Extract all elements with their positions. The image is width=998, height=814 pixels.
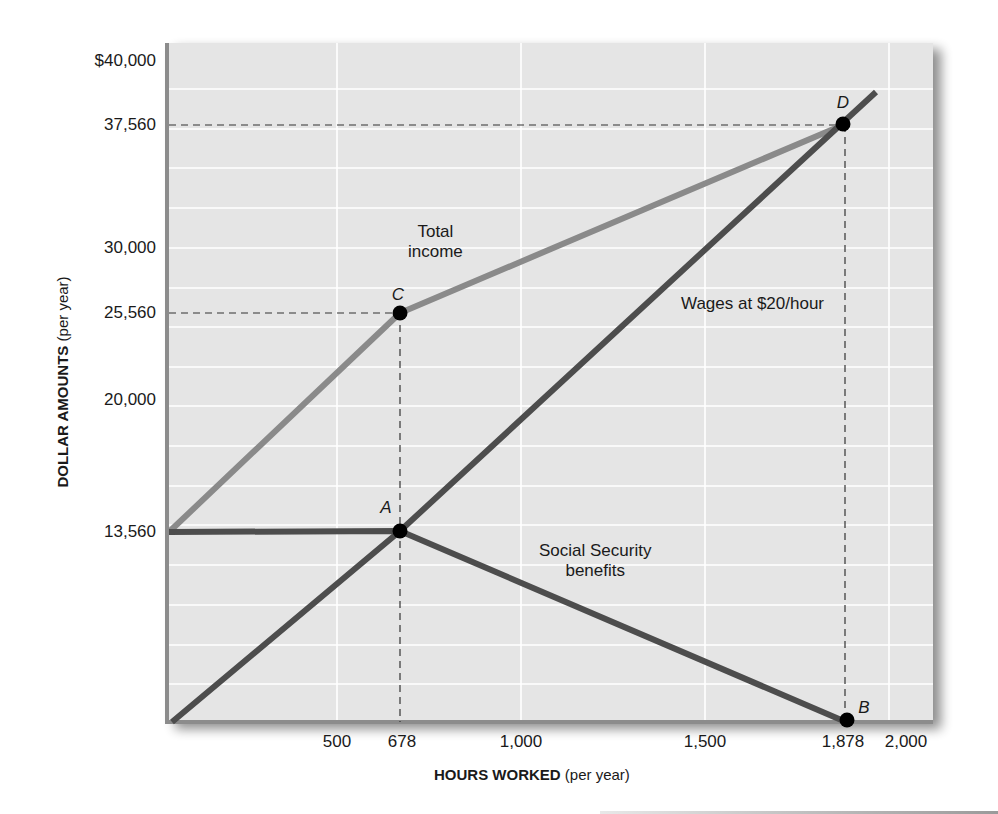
y-axis-title: DOLLAR AMOUNTS (per year) bbox=[54, 276, 71, 487]
point-b-marker bbox=[840, 713, 855, 728]
social-security-label: Social Security benefits bbox=[539, 541, 651, 581]
x-tick-label: 2,000 bbox=[885, 733, 928, 751]
y-tick-label: 37,560 bbox=[104, 116, 156, 134]
point-d-label: D bbox=[837, 93, 849, 113]
x-tick-label: 500 bbox=[323, 733, 351, 751]
total-income-label-line2: income bbox=[408, 242, 463, 262]
total-income-label: Total income bbox=[408, 222, 463, 262]
x-tick-label: 1,500 bbox=[684, 733, 727, 751]
x-axis-title-unit: (per year) bbox=[561, 766, 630, 783]
point-a-label: A bbox=[380, 498, 391, 518]
x-tick-label: 1,000 bbox=[500, 733, 543, 751]
point-c-marker bbox=[393, 306, 408, 321]
y-tick-label: 25,560 bbox=[104, 304, 156, 322]
x-tick-label: 1,878 bbox=[822, 733, 865, 751]
social-security-label-line1: Social Security bbox=[539, 541, 651, 561]
chart-figure: $40,000 37,560 30,000 25,560 20,000 13,5… bbox=[0, 0, 998, 814]
point-d-marker bbox=[836, 117, 851, 132]
point-c-label: C bbox=[392, 285, 404, 305]
y-tick-label: 13,560 bbox=[104, 523, 156, 541]
x-axis-title: HOURS WORKED (per year) bbox=[434, 766, 630, 783]
y-tick-label: 30,000 bbox=[104, 239, 156, 257]
y-axis-title-unit: (per year) bbox=[54, 276, 71, 345]
point-a-marker bbox=[393, 524, 408, 539]
wages-label: Wages at $20/hour bbox=[681, 294, 824, 314]
social-security-label-line2: benefits bbox=[539, 561, 651, 581]
y-axis-title-main: DOLLAR AMOUNTS bbox=[54, 346, 71, 488]
point-b-label: B bbox=[858, 698, 869, 718]
y-tick-label: $40,000 bbox=[95, 52, 156, 70]
total-income-label-line1: Total bbox=[408, 222, 463, 242]
x-axis-title-main: HOURS WORKED bbox=[434, 766, 561, 783]
y-tick-label: 20,000 bbox=[104, 391, 156, 409]
x-tick-label: 678 bbox=[388, 733, 416, 751]
